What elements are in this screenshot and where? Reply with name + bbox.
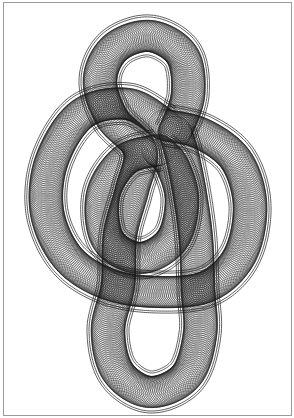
spirograph-knot-drawing (0, 0, 294, 418)
tube-circles (25, 15, 271, 413)
